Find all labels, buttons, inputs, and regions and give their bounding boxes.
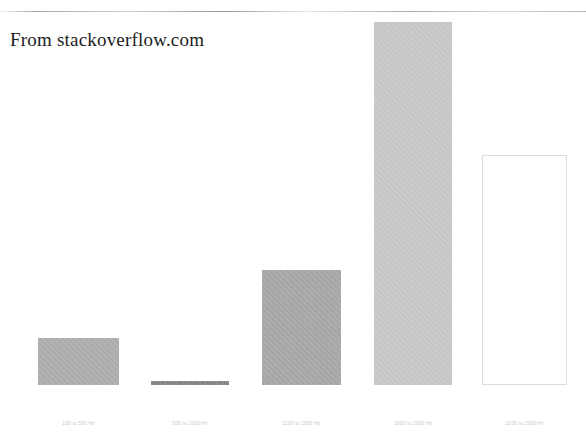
bar-chart: 150 to 500 Hz 500 to 1000 Hz 1100 to 150…: [0, 0, 586, 434]
bar-2: [262, 270, 341, 385]
slide-canvas: From stackoverflow.com 150 to 500 Hz 500…: [0, 0, 586, 434]
bar-4: [482, 155, 567, 385]
bar-1: [151, 381, 229, 385]
x-tick-label-0: 150 to 500 Hz: [38, 420, 119, 427]
x-tick-label-3: 1600 to 2000 Hz: [374, 420, 452, 427]
x-tick-label-4: 2100 to 2500 Hz: [482, 420, 567, 427]
x-tick-label-2: 1100 to 1500 Hz: [262, 420, 341, 427]
bar-0: [38, 338, 119, 385]
x-tick-label-1: 500 to 1000 Hz: [151, 420, 229, 427]
bar-3: [374, 22, 452, 385]
